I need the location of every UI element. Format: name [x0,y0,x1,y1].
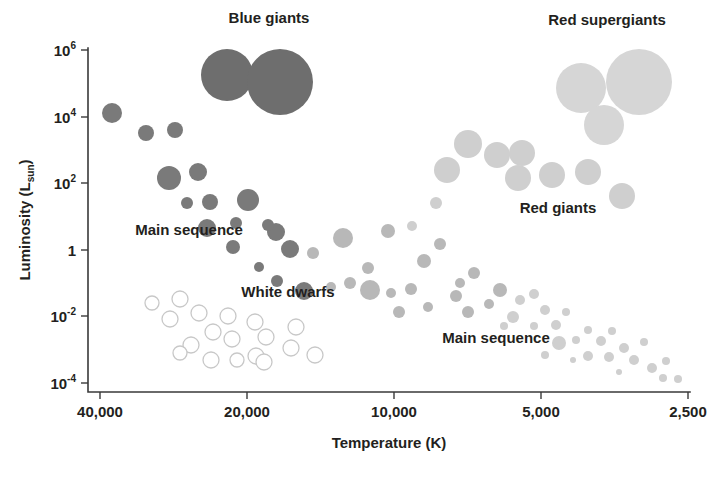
star-dot [584,105,624,145]
white-dwarf-dot [230,353,244,367]
star-dot [507,311,519,323]
white-dwarf-dot [173,346,187,360]
star-dot [551,320,561,330]
star-dot [662,357,670,365]
star-dot [484,299,494,309]
star-dot [647,363,657,373]
white-dwarf-dot [288,319,304,335]
star-dot [407,221,417,231]
star-dot [570,357,576,363]
star-dot [584,326,592,334]
star-dot [462,306,474,318]
white-dwarf-dot [191,305,207,321]
star-dot [237,189,259,211]
white-dwarf-dot [205,324,221,340]
star-dot [417,254,431,268]
star-dot [430,197,442,209]
hr-diagram-chart: 106104102110-210-440,00020,00010,0005,00… [0,0,721,480]
annotation-red-giants: Red giants [520,199,597,216]
white-dwarf-dot [172,291,188,307]
annotation-blue-giants: Blue giants [229,9,310,26]
star-dot [167,122,183,138]
x-axis-title: Temperature (K) [332,434,447,451]
star-dot [556,63,606,113]
star-dot [360,280,380,300]
star-dot [455,278,465,288]
star-dot [640,338,648,346]
annotation-white-dwarfs: White dwarfs [241,283,334,300]
star-dot [102,103,122,123]
white-dwarf-dot [203,352,219,368]
star-dot [583,351,593,361]
annotation-main-sequence-hot: Main sequence [135,221,243,238]
star-dot [572,336,580,344]
star-dot [450,290,462,302]
star-dot [608,327,616,335]
star-dot [529,289,539,299]
star-dot [333,228,353,248]
star-dot [381,224,395,238]
star-dot [552,336,566,350]
star-dot [659,374,667,382]
y-tick-label: 1 [68,242,76,259]
white-dwarf-dot [162,311,178,327]
star-dot [509,140,535,166]
white-dwarf-dot [307,347,323,363]
star-dot [281,240,299,258]
annotation-red-supergiants: Red supergiants [548,11,666,28]
star-dot [541,351,549,359]
star-dot [405,283,417,295]
star-dot [454,130,482,158]
star-dot [423,302,433,312]
star-dot [157,166,181,190]
star-dot [202,194,218,210]
white-dwarf-dot [224,331,240,347]
star-dot [247,49,313,115]
star-dot [540,305,550,315]
x-tick-label: 2,500 [669,403,707,420]
white-dwarf-dot [256,354,272,370]
star-dot [201,49,253,101]
x-tick-label: 40,000 [77,403,123,420]
star-dot [138,125,154,141]
star-dot [629,355,639,365]
star-dot [596,336,606,346]
star-dot [393,306,405,318]
x-tick-label: 20,000 [224,403,270,420]
star-dot [181,197,193,209]
star-dot [562,308,570,316]
star-dot [609,183,635,209]
star-dot [619,343,629,353]
star-dot [434,157,460,183]
star-dot [468,267,480,279]
star-dot [575,159,601,185]
white-dwarf-dot [220,308,236,324]
star-dot [515,295,525,305]
star-dot [616,369,622,375]
annotation-main-sequence-cool: Main sequence [442,329,550,346]
star-dot [307,247,319,259]
star-dot [674,375,682,383]
star-dot [344,277,356,289]
star-dot [254,262,264,272]
star-dot [189,163,207,181]
x-tick-label: 10,000 [371,403,417,420]
star-dot [606,49,672,115]
star-dot [484,142,510,168]
x-tick-label: 5,000 [522,403,560,420]
star-dot [386,288,396,298]
white-dwarf-dot [145,296,159,310]
star-dot [493,283,507,297]
white-dwarf-dot [283,340,299,356]
white-dwarf-dot [247,314,263,330]
star-dot [226,240,240,254]
star-dot [505,165,531,191]
white-dwarf-dot [258,329,274,345]
star-dot [362,262,374,274]
star-dot [539,162,565,188]
star-dot [604,352,614,362]
star-dot [434,238,446,250]
star-dot [262,219,274,231]
